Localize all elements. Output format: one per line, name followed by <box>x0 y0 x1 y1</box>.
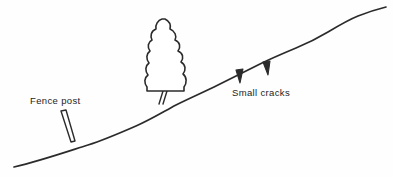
crack-mark-2 <box>263 61 270 75</box>
sketch-figure: Fence post Small cracks <box>0 0 393 177</box>
fence-post-label: Fence post <box>30 95 81 106</box>
tree-crown-outline <box>145 19 186 91</box>
ground-surface-line <box>14 7 386 167</box>
crack-group <box>236 61 270 83</box>
tree-trunk-left-line <box>159 91 163 104</box>
tree-group <box>145 19 186 104</box>
fence-post-shape <box>61 110 75 142</box>
tree-trunk-right-line <box>163 91 167 104</box>
sketch-canvas: Fence post Small cracks <box>0 0 393 177</box>
small-cracks-label: Small cracks <box>232 87 290 98</box>
